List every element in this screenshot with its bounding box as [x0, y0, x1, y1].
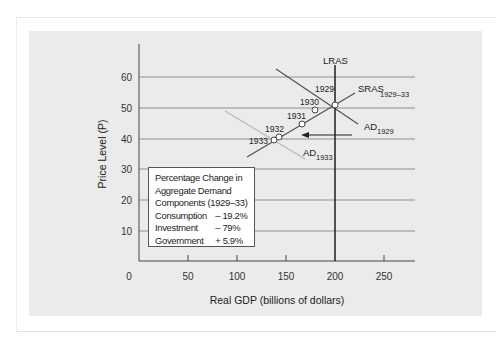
svg-text:1933: 1933 [316, 153, 333, 162]
x-tick: 50 [182, 271, 194, 282]
y-tick: 30 [121, 164, 133, 175]
svg-text:AD: AD [303, 147, 316, 158]
legend-row-value: – 79% [215, 222, 254, 235]
label-1932: 1932 [265, 124, 284, 134]
y-tick: 50 [121, 103, 133, 114]
legend-title-line1: Percentage Change in [155, 172, 254, 185]
legend-row-value: + 5.9% [215, 235, 254, 248]
svg-text:AD: AD [364, 121, 377, 132]
y-tick: 10 [121, 226, 133, 237]
year-labels: 1929 1930 1931 1932 1933 [249, 84, 334, 146]
ad1933-label: AD 1933 [303, 147, 333, 162]
legend-row-label: Government [155, 235, 215, 248]
x-tick: 0 [126, 271, 132, 282]
label-1933: 1933 [249, 136, 268, 146]
ad1929-label: AD 1929 [364, 121, 394, 136]
legend-row-value: – 19.2% [215, 210, 254, 223]
x-axis-title: Real GDP (billions of dollars) [210, 294, 345, 306]
y-tick: 20 [121, 195, 133, 206]
y-axis-title: Price Level (P) [96, 120, 108, 189]
legend-title-line2: Aggregate Demand [155, 185, 254, 198]
point-1929 [332, 102, 338, 108]
legend-row-government: Government + 5.9% [155, 235, 254, 248]
x-tick: 200 [327, 271, 344, 282]
svg-text:1929: 1929 [377, 127, 394, 136]
x-tick: 100 [229, 271, 246, 282]
sras-label: SRAS 1929–33 [358, 83, 409, 99]
legend-row-consumption: Consumption – 19.2% [155, 210, 254, 223]
y-tick: 40 [121, 134, 133, 145]
svg-text:1929–33: 1929–33 [380, 90, 409, 99]
y-tick-labels: 60 50 40 30 20 10 [121, 72, 133, 237]
x-tick: 250 [376, 271, 393, 282]
shift-arrow [301, 132, 352, 138]
point-1930 [312, 107, 318, 113]
legend-row-investment: Investment – 79% [155, 222, 254, 235]
lras-label: LRAS [323, 55, 348, 66]
legend-row-label: Investment [155, 222, 215, 235]
components-legend-box: Percentage Change in Aggregate Demand Co… [148, 167, 255, 247]
legend-title-line3: Components (1929–33) [155, 197, 254, 210]
x-tick-labels: 0 50 100 150 200 250 [126, 271, 393, 282]
point-1933 [271, 137, 277, 143]
y-tick: 60 [121, 72, 133, 83]
label-1930: 1930 [300, 97, 319, 107]
legend-row-label: Consumption [155, 210, 215, 223]
point-1931 [299, 121, 305, 127]
label-1929: 1929 [315, 84, 334, 94]
x-tick: 150 [278, 271, 295, 282]
label-1931: 1931 [287, 111, 306, 121]
